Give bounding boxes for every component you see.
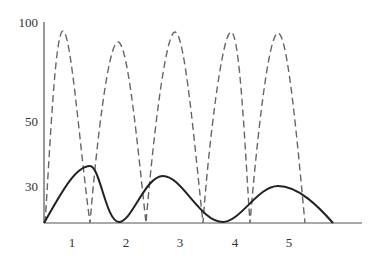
x-tick-label: 1 xyxy=(69,235,76,250)
x-tick-label: 3 xyxy=(177,235,184,250)
dashed-series-line xyxy=(45,31,305,223)
x-tick-label: 2 xyxy=(123,235,130,250)
x-tick-label: 4 xyxy=(232,235,239,250)
y-tick-label: 50 xyxy=(25,114,38,129)
solid-series-line xyxy=(44,166,333,223)
y-tick-label: 100 xyxy=(19,15,39,30)
y-tick-label: 30 xyxy=(25,179,38,194)
chart: 100 50 30 1 2 3 4 5 xyxy=(0,0,379,260)
x-tick-label: 5 xyxy=(286,235,293,250)
